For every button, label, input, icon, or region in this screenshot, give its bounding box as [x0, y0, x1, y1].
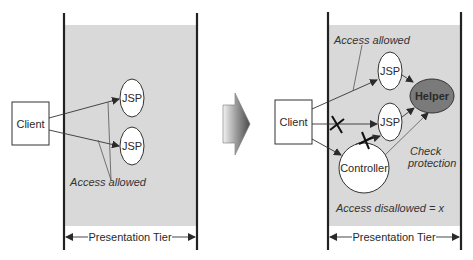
jsp-bottom-label: JSP — [380, 116, 400, 128]
refactoring-diagram: Client JSP JSP Access allowed Presentati… — [0, 0, 473, 260]
before-panel: Client JSP JSP Access allowed Presentati… — [12, 13, 197, 250]
access-disallowed-annotation: Access disallowed = x — [335, 202, 444, 214]
helper-label: Helper — [415, 90, 450, 102]
transition-arrow-icon — [223, 93, 250, 155]
client-label: Client — [279, 116, 307, 128]
jsp-top-label: JSP — [380, 65, 400, 77]
after-panel: Client JSP JSP Helper Controller Access … — [275, 12, 461, 250]
jsp-top-label: JSP — [122, 92, 142, 104]
presentation-tier-label: Presentation Tier — [88, 231, 171, 243]
client-label: Client — [16, 118, 44, 130]
controller-label: Controller — [340, 162, 388, 174]
access-allowed-annotation: Access allowed — [333, 34, 411, 46]
access-allowed-annotation: Access allowed — [69, 176, 147, 188]
presentation-tier-zone — [65, 25, 196, 226]
presentation-tier-label: Presentation Tier — [352, 231, 435, 243]
check-protection-line2: protection — [407, 157, 456, 169]
jsp-bottom-label: JSP — [122, 140, 142, 152]
check-protection-line1: Check — [410, 145, 442, 157]
